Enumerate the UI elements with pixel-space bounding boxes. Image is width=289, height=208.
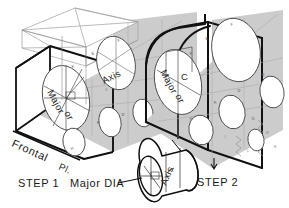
c-marker-label: C <box>181 71 188 82</box>
frontal-plane-label: Frontal <box>10 137 50 164</box>
svg-text:L: L <box>247 149 249 153</box>
step2-caption: STEP 2 <box>197 176 238 188</box>
drawing-sheet: F E K B D A H G Major or Axis Frontal Pl… <box>0 0 289 208</box>
technical-drawing-canvas: F E K B D A H G Major or Axis Frontal Pl… <box>0 0 289 208</box>
frontal-plane-abbrev-label: Pl. <box>57 161 73 176</box>
svg-text:E: E <box>91 50 95 56</box>
step1-caption: STEP 1 <box>18 177 59 189</box>
svg-text:N: N <box>274 145 277 149</box>
svg-text:K: K <box>71 63 75 69</box>
svg-text:M: M <box>266 131 269 135</box>
major-dia-caption: Major DIA <box>70 177 124 189</box>
